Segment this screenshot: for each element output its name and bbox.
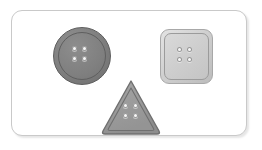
button-hole <box>177 57 182 62</box>
triangle-button[interactable] <box>100 78 162 136</box>
round-button-holes <box>72 46 87 61</box>
button-hole <box>187 57 192 62</box>
button-hole <box>177 47 182 52</box>
button-hole <box>187 47 192 52</box>
button-hole <box>123 103 128 108</box>
screenshot-canvas <box>0 0 262 150</box>
button-hole <box>133 103 138 108</box>
round-button[interactable] <box>53 27 111 85</box>
button-hole <box>82 46 87 51</box>
button-hole <box>123 113 128 118</box>
square-button[interactable] <box>160 29 213 84</box>
button-hole <box>72 56 77 61</box>
button-hole <box>72 46 77 51</box>
button-hole <box>82 56 87 61</box>
square-button-holes <box>177 47 192 62</box>
button-collection-card <box>11 10 247 136</box>
button-hole <box>133 113 138 118</box>
triangle-button-holes <box>123 103 138 118</box>
